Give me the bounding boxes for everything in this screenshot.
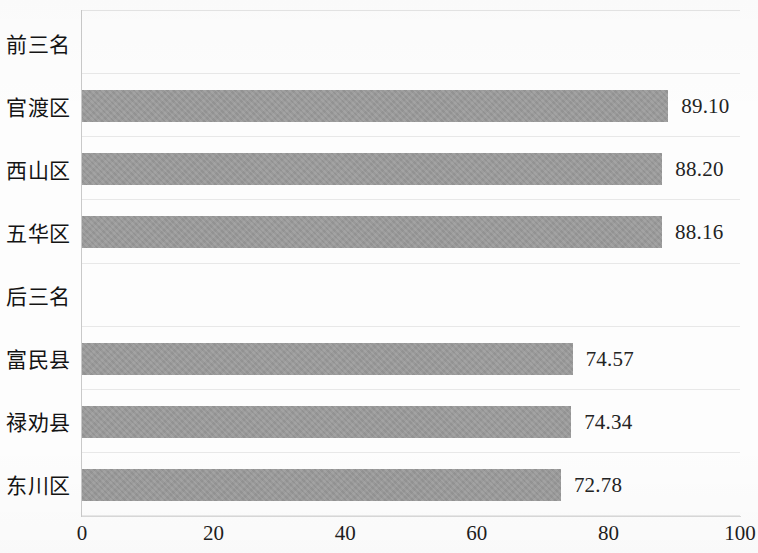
- bar-row: 74.57: [0, 326, 758, 389]
- bar: [82, 469, 561, 501]
- bar-value-label: 88.20: [662, 153, 723, 185]
- bar: [82, 153, 662, 185]
- category-group-header: 前三名: [6, 28, 80, 58]
- bar: [82, 343, 573, 375]
- category-label: 五华区: [6, 217, 80, 247]
- category-label: 西山区: [6, 154, 80, 184]
- x-tick-label: 100: [724, 521, 756, 546]
- bar-row: 89.10: [0, 73, 758, 136]
- category-label: 富民县: [6, 343, 80, 373]
- bar-value-label: 74.57: [573, 343, 634, 375]
- bar-row: [0, 10, 758, 73]
- category-label: 禄劝县: [6, 406, 80, 436]
- bar-row: 72.78: [0, 452, 758, 515]
- bar-row: 74.34: [0, 389, 758, 452]
- category-label: 官渡区: [6, 91, 80, 121]
- category-label: 东川区: [6, 469, 80, 499]
- bar-value-label: 88.16: [662, 216, 723, 248]
- chart-figure: 89.1088.2088.1674.5774.3472.78 前三名官渡区西山区…: [0, 0, 758, 553]
- x-tick-label: 60: [466, 521, 487, 546]
- bar-value-label: 74.34: [571, 406, 632, 438]
- bar-row: 88.20: [0, 136, 758, 199]
- x-tick-label: 80: [598, 521, 619, 546]
- x-tick-label: 0: [77, 521, 88, 546]
- bar: [82, 216, 662, 248]
- bar: [82, 406, 571, 438]
- bar: [82, 90, 668, 122]
- gridline: [82, 515, 740, 516]
- x-tick-label: 20: [203, 521, 224, 546]
- x-tick-label: 40: [335, 521, 356, 546]
- bar-row: [0, 263, 758, 326]
- bar-row: 88.16: [0, 199, 758, 262]
- x-axis-line: [82, 516, 741, 517]
- category-group-header: 后三名: [6, 280, 80, 310]
- bar-value-label: 72.78: [561, 469, 622, 501]
- bar-value-label: 89.10: [668, 90, 729, 122]
